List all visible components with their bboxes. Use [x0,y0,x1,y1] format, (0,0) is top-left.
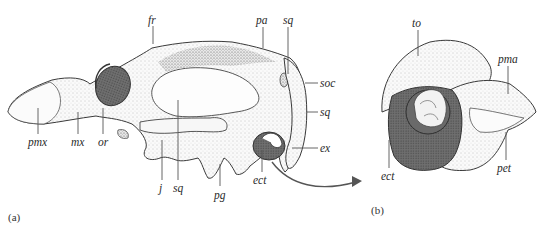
label-pg: pg [214,190,226,202]
label-pmx: pmx [28,137,47,149]
label-pma: pma [498,54,518,66]
label-sq-top: sq [283,15,293,27]
label-fr: fr [148,15,156,27]
label-ect-b: ect [381,171,394,183]
label-j: j [159,183,162,195]
label-ect-a: ect [253,175,266,187]
label-soc: soc [320,78,335,90]
label-sq-bottom: sq [173,183,183,195]
panel-label-a: (a) [8,212,20,223]
label-mx: mx [71,137,84,149]
figure-artwork [0,0,545,226]
label-to: to [412,18,421,30]
label-or: or [98,137,108,149]
label-pa: pa [256,15,268,27]
panel-label-b: (b) [371,205,384,216]
arrow-head-icon [352,176,362,187]
label-sq-right: sq [320,107,330,119]
skull-figure: fr pa sq soc sq ex pmx mx or j sq pg ect… [0,0,545,226]
label-pet: pet [497,163,511,175]
label-ex: ex [320,143,330,155]
